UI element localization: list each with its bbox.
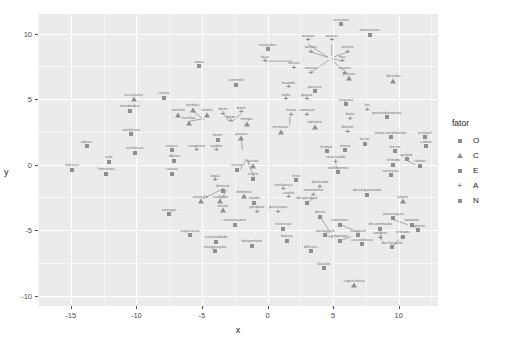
data-point: + <box>318 183 323 191</box>
data-point <box>343 148 347 152</box>
point-label: humor <box>320 143 332 148</box>
legend-item-o[interactable]: O <box>452 133 502 148</box>
plot-panel: assuntointeresses+outros+outrossituações… <box>38 14 438 306</box>
data-point <box>385 115 389 119</box>
y-tick-label: 0 <box>28 160 32 169</box>
leader-line <box>341 225 359 233</box>
data-point <box>235 168 239 172</box>
leader-line <box>308 44 328 57</box>
data-point: + <box>255 208 260 216</box>
point-label: ajudar <box>210 142 222 147</box>
grid-line-horizontal <box>38 34 438 35</box>
point-label: bem <box>227 113 235 118</box>
leader-line <box>311 52 328 57</box>
data-point <box>214 240 218 244</box>
data-point: + <box>378 234 383 242</box>
point-label: vários <box>288 60 300 65</box>
leader-line <box>393 237 401 246</box>
data-point <box>391 216 395 220</box>
data-point <box>346 76 352 81</box>
data-point <box>401 235 405 239</box>
grid-line-horizontal <box>38 99 438 100</box>
data-point <box>85 144 89 148</box>
data-point: + <box>263 57 268 65</box>
data-point <box>186 120 192 125</box>
point-label: adiante <box>308 119 322 124</box>
y-tick-label: 5 <box>28 95 32 104</box>
x-tick-mark <box>399 306 400 309</box>
leader-line <box>247 159 255 177</box>
data-point <box>356 233 360 237</box>
data-point <box>338 239 342 243</box>
square-marker-icon <box>452 193 467 208</box>
data-point: + <box>228 117 233 125</box>
point-label: assistência <box>351 236 373 241</box>
point-label: outro <box>248 171 258 176</box>
data-point: + <box>348 115 353 123</box>
point-label: outros <box>305 44 317 49</box>
data-point: + <box>291 64 296 72</box>
point-label: outros <box>341 44 353 49</box>
legend-item-e[interactable]: E <box>452 163 502 178</box>
legend-item-a[interactable]: +A <box>452 178 502 193</box>
data-point: + <box>194 146 199 154</box>
square-marker-icon <box>452 133 467 148</box>
legend-item-c[interactable]: C <box>452 148 502 163</box>
data-point <box>252 201 256 205</box>
point-label: estresse <box>275 221 292 226</box>
legend-item-label: O <box>473 136 479 145</box>
x-tick-label: -5 <box>199 311 206 320</box>
legend-item-label: N <box>473 196 479 205</box>
point-label: leve <box>292 172 300 177</box>
point-label: interesses <box>360 27 380 32</box>
data-point: + <box>308 48 313 56</box>
data-point <box>360 242 364 246</box>
point-label: bate <box>346 111 355 116</box>
data-point: + <box>286 83 291 91</box>
data-point <box>400 199 406 204</box>
point-label: tempo <box>240 116 252 121</box>
data-point <box>175 112 181 117</box>
point-label: novas <box>166 142 178 147</box>
data-point: + <box>308 69 313 77</box>
point-label: tomado <box>405 217 419 222</box>
point-label: agonia <box>412 222 425 227</box>
data-point: + <box>305 111 310 119</box>
point-label: desanimado <box>368 221 392 226</box>
x-tick-label: 0 <box>265 311 269 320</box>
point-label: triste <box>360 136 370 141</box>
point-label: imaginação <box>204 243 226 248</box>
point-label: escolares <box>124 91 143 96</box>
point-label: todo <box>282 91 291 96</box>
point-label: começo <box>299 107 314 112</box>
point-label: prossegue <box>383 210 403 215</box>
point-label: rotina <box>158 90 169 95</box>
y-tick-mark <box>35 34 38 35</box>
plus-marker-icon: + <box>452 178 467 193</box>
legend-item-n[interactable]: N <box>452 193 502 208</box>
square-marker-icon <box>452 163 467 178</box>
legend-item-label: A <box>473 181 478 190</box>
y-tick-label: -10 <box>21 291 32 300</box>
point-label: reservado <box>326 154 345 159</box>
data-point <box>424 144 428 148</box>
point-label: brincar <box>216 183 229 188</box>
data-point <box>221 189 225 193</box>
data-point <box>338 223 342 227</box>
leader-line <box>333 52 347 57</box>
point-label: artísticas <box>126 145 144 150</box>
data-point <box>390 78 396 83</box>
x-tick-mark <box>71 306 72 309</box>
data-point <box>322 266 326 270</box>
legend-item-label: E <box>473 166 478 175</box>
data-point <box>107 160 111 164</box>
point-label: fins <box>339 53 346 58</box>
point-label: diante <box>342 124 354 129</box>
point-label: assunto <box>333 16 348 21</box>
data-point <box>170 172 174 176</box>
point-label: ideias <box>169 153 180 158</box>
point-label: quieto <box>401 151 413 156</box>
leader-line <box>393 220 407 225</box>
point-label: desorganizado <box>353 187 382 192</box>
data-point <box>216 138 220 142</box>
